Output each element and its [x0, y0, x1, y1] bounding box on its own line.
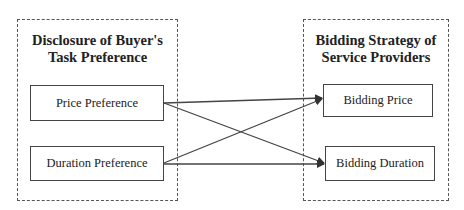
node-price-preference: Price Preference [30, 85, 164, 121]
node-label: Duration Preference [47, 156, 148, 171]
node-bidding-price: Bidding Price [323, 84, 433, 117]
node-label: Price Preference [56, 96, 138, 111]
right-group-title-line2: Service Providers [304, 49, 448, 66]
node-label: Bidding Price [343, 93, 412, 108]
right-group-title: Bidding Strategy of Service Providers [304, 32, 448, 66]
left-group-title-line1: Disclosure of Buyer's [18, 32, 177, 49]
edge-price-to-bidding-duration [164, 103, 324, 163]
left-group-title: Disclosure of Buyer's Task Preference [18, 32, 177, 66]
right-group-title-line1: Bidding Strategy of [304, 32, 448, 49]
node-duration-preference: Duration Preference [30, 146, 164, 181]
edge-price-to-bidding-price [164, 98, 322, 103]
node-bidding-duration: Bidding Duration [325, 146, 435, 181]
left-group-title-line2: Task Preference [18, 49, 177, 66]
edge-duration-to-bidding-price [164, 99, 322, 163]
node-label: Bidding Duration [336, 156, 424, 171]
